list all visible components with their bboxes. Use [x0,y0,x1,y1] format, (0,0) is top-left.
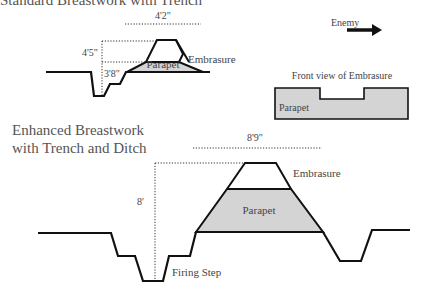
top-embrasure-label: Embrasure [188,53,236,65]
top-height-inner-label: 3'8" [104,68,120,79]
bottom-embrasure-outline [227,163,291,189]
front-view-parapet-label: Parapet [279,102,309,113]
bottom-width-label: 8'9" [247,132,263,143]
front-view-title: Front view of Embrasure [292,70,393,81]
breastwork-diagram: Standard Breastwork with Trench 4'2" 4'5… [0,0,421,296]
bottom-embrasure-label: Embrasure [293,167,341,179]
top-parapet-label: Parapet [147,58,180,70]
firing-step-label: Firing Step [172,266,222,278]
bottom-title-line2: with Trench and Ditch [12,140,147,156]
top-height-outer-label: 4'5" [82,47,98,58]
top-width-label: 4'2" [155,10,171,21]
enemy-label: Enemy [331,17,359,28]
bottom-title-line1: Enhanced Breastwork [12,122,145,138]
bottom-height-label: 8' [137,196,144,207]
top-title: Standard Breastwork with Trench [0,0,203,8]
bottom-parapet-label: Parapet [243,204,276,216]
bottom-ground-profile [38,230,410,281]
top-ground-profile [46,72,210,96]
